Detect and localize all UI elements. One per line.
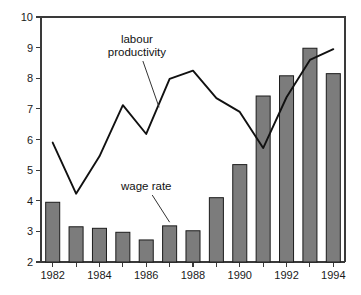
bar-1985 [116,232,130,262]
y-tick-label: 4 [27,195,33,207]
y-tick-label: 2 [27,256,33,268]
y-tick-label: 8 [27,72,33,84]
y-tick-label: 7 [27,103,33,115]
y-tick-label: 10 [21,11,33,23]
bar-1991 [256,96,270,262]
bar-1992 [280,76,294,262]
bar-1988 [186,231,200,262]
wage-rate-annotation-leader [152,195,169,222]
bar-1994 [326,74,340,262]
y-tick-label: 3 [27,225,33,237]
x-tick-label: 1982 [40,269,64,281]
y-axis-ticks: 2345678910 [21,11,41,268]
bar-1987 [163,226,177,262]
labour-productivity-annotation-leader [143,61,159,107]
wage-rate-annotation-line: wage rate [120,180,172,192]
x-axis-ticks: 1982198419861988199019921994 [40,262,345,281]
plot-frame [41,17,345,262]
bar-1982 [46,202,60,262]
chart-container: 2345678910 1982198419861988199019921994 … [0,0,361,295]
x-tick-label: 1990 [228,269,252,281]
chart-canvas: 2345678910 1982198419861988199019921994 … [0,0,361,295]
bar-1983 [69,227,83,262]
y-tick-label: 6 [27,134,33,146]
x-tick-label: 1984 [87,269,111,281]
chart-annotations: labourproductivitywage rate [108,33,172,222]
bar-1993 [303,48,317,262]
labour-productivity-annotation-text: labourproductivity [108,33,166,58]
y-tick-label: 9 [27,42,33,54]
x-tick-label: 1994 [321,269,345,281]
wage-rate-annotation-text: wage rate [120,180,172,192]
x-tick-label: 1986 [134,269,158,281]
x-tick-label: 1992 [274,269,298,281]
labour-productivity-annotation-line: productivity [108,46,166,58]
bar-1984 [92,228,106,262]
bar-1990 [233,165,247,262]
bar-1989 [209,198,223,262]
y-tick-label: 5 [27,164,33,176]
labour-productivity-annotation-line: labour [121,33,153,45]
x-tick-label: 1988 [181,269,205,281]
bar-1986 [139,240,153,262]
